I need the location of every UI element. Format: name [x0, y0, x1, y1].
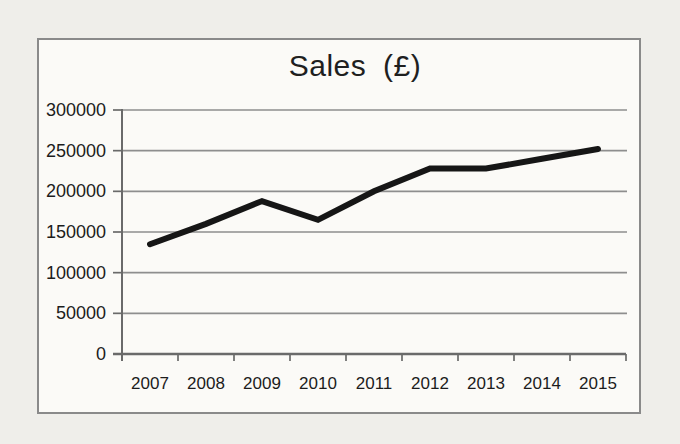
x-tick-label: 2014 [523, 374, 561, 393]
y-tick-label: 0 [96, 344, 106, 364]
x-tick-label: 2010 [299, 374, 337, 393]
y-tick-label: 150000 [46, 222, 106, 242]
x-tick-label: 2008 [187, 374, 225, 393]
y-tick-label: 200000 [46, 181, 106, 201]
x-tick-label: 2011 [356, 374, 393, 393]
y-tick-label: 300000 [46, 100, 106, 120]
y-tick-label: 100000 [46, 263, 106, 283]
x-tick-label: 2012 [411, 374, 449, 393]
x-tick-label: 2007 [131, 374, 169, 393]
sales-series-line [150, 149, 598, 244]
page: Sales (£) 050000100000150000200000250000… [0, 0, 680, 444]
y-tick-label: 250000 [46, 141, 106, 161]
x-tick-label: 2009 [243, 374, 281, 393]
x-tick-label: 2015 [579, 374, 617, 393]
sales-line-chart: 0500001000001500002000002500003000002007… [0, 0, 680, 444]
y-tick-label: 50000 [56, 303, 106, 323]
x-tick-label: 2013 [467, 374, 505, 393]
